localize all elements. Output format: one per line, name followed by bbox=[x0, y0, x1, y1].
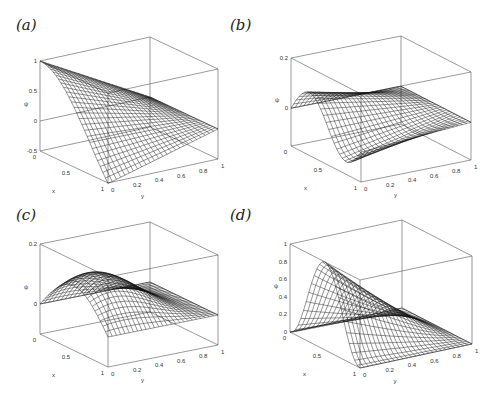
y-tick-label: 0 bbox=[364, 186, 368, 192]
y-axis-label: y bbox=[141, 377, 144, 383]
x-axis-label: x bbox=[304, 185, 307, 191]
z-axis-label: ψ bbox=[24, 101, 28, 107]
z-axis-label: ψ bbox=[274, 283, 278, 289]
y-tick-label: 0.2 bbox=[386, 182, 395, 188]
panel-d: (d) 00.20.40.60.8100.5100.20.40.60.81ψxy bbox=[246, 202, 492, 404]
y-tick-label: 0.4 bbox=[155, 362, 164, 368]
x-tick-label: 1 bbox=[353, 371, 357, 377]
surface-plot-a: -0.500.5100.5100.20.40.60.81ψxy bbox=[0, 0, 246, 202]
y-tick-label: 0.6 bbox=[177, 358, 186, 364]
x-tick-label: 1 bbox=[101, 370, 105, 376]
surface-plot-c: 00.200.5100.20.40.60.81ψxy bbox=[0, 202, 246, 404]
x-tick-label: 0 bbox=[33, 154, 37, 160]
z-axis-label: ψ bbox=[24, 284, 28, 290]
x-tick-label: 0.5 bbox=[62, 170, 71, 176]
y-tick-label: 1 bbox=[221, 349, 225, 355]
z-tick-label: 0.4 bbox=[279, 294, 288, 300]
y-tick-label: 0 bbox=[363, 372, 367, 378]
y-tick-label: 0 bbox=[111, 371, 115, 377]
y-tick-label: 0.2 bbox=[133, 367, 142, 373]
z-tick-label: 0.2 bbox=[280, 55, 289, 61]
x-tick-label: 0.5 bbox=[62, 354, 71, 360]
y-tick-label: 0.2 bbox=[133, 182, 142, 188]
z-axis-label: ψ bbox=[275, 97, 279, 103]
x-axis-label: x bbox=[52, 188, 55, 194]
x-axis-label: x bbox=[303, 371, 306, 377]
y-tick-label: 0.8 bbox=[452, 168, 461, 174]
z-tick-label: 0.5 bbox=[29, 88, 38, 94]
y-axis-label: y bbox=[141, 193, 144, 199]
panel-b: (b) 00.200.5100.20.40.60.81ψxy bbox=[246, 0, 492, 202]
z-tick-label: 1 bbox=[284, 241, 288, 247]
y-tick-label: 0.8 bbox=[199, 168, 208, 174]
y-tick-label: 0.4 bbox=[155, 177, 164, 183]
y-tick-label: 0.8 bbox=[199, 353, 208, 359]
y-tick-label: 0.6 bbox=[177, 173, 186, 179]
panel-c: (c) 00.200.5100.20.40.60.81ψxy bbox=[0, 202, 246, 404]
z-tick-label: 0.2 bbox=[29, 241, 38, 247]
z-tick-label: 0 bbox=[285, 105, 289, 111]
surface-plot-d: 00.20.40.60.8100.5100.20.40.60.81ψxy bbox=[246, 202, 492, 404]
x-tick-label: 1 bbox=[354, 185, 358, 191]
y-axis-label: y bbox=[394, 192, 397, 198]
y-tick-label: 1 bbox=[474, 164, 478, 170]
surface-plot-b: 00.200.5100.20.40.60.81ψxy bbox=[246, 0, 492, 202]
panel-a: (a) -0.500.5100.5100.20.40.60.81ψxy bbox=[0, 0, 246, 202]
x-tick-label: 0.5 bbox=[314, 167, 323, 173]
x-axis-label: x bbox=[52, 372, 55, 378]
x-tick-label: 1 bbox=[101, 186, 105, 192]
y-tick-label: 0 bbox=[111, 187, 115, 193]
z-tick-label: 0 bbox=[34, 118, 38, 124]
x-tick-label: 0 bbox=[283, 335, 287, 341]
z-tick-label: 0.6 bbox=[279, 276, 288, 282]
y-tick-label: 0.6 bbox=[430, 358, 439, 364]
y-axis-label: y bbox=[394, 378, 397, 384]
z-tick-label: 0.8 bbox=[279, 259, 288, 265]
z-tick-label: 0.2 bbox=[279, 311, 288, 317]
x-tick-label: 0 bbox=[284, 149, 288, 155]
y-tick-label: 1 bbox=[475, 348, 479, 354]
x-tick-label: 0 bbox=[33, 337, 37, 343]
y-tick-label: 0.4 bbox=[408, 177, 417, 183]
z-tick-label: 0 bbox=[34, 301, 38, 307]
x-tick-label: 0.5 bbox=[313, 353, 322, 359]
y-tick-label: 0.4 bbox=[408, 362, 417, 368]
y-tick-label: 0.2 bbox=[385, 367, 394, 373]
y-tick-label: 1 bbox=[221, 163, 225, 169]
z-tick-label: 1 bbox=[34, 58, 38, 64]
y-tick-label: 0.8 bbox=[453, 353, 462, 359]
y-tick-label: 0.6 bbox=[430, 173, 439, 179]
